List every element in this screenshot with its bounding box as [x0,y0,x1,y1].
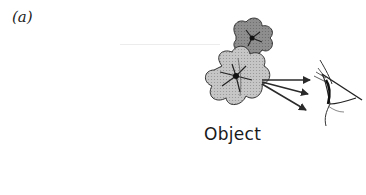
light-rays [262,80,310,110]
object-light-eye-diagram [0,0,366,195]
object-label: Object [204,124,261,144]
eye-icon [314,60,362,126]
front-flower-icon [205,46,269,104]
